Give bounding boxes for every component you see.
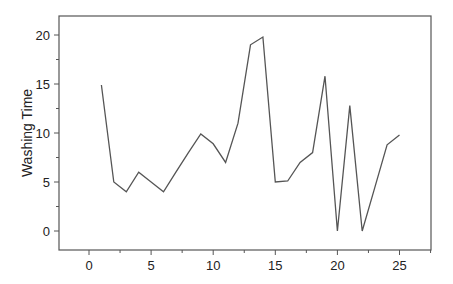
- plot-frame: [59, 16, 431, 250]
- x-axis: 0510152025: [85, 250, 430, 273]
- line-chart: 0510152025 05101520 Washing Time: [0, 0, 453, 284]
- y-tick-label: 15: [36, 77, 50, 92]
- x-tick-label: 0: [85, 258, 92, 273]
- y-axis: 05101520: [36, 28, 59, 239]
- x-tick-label: 25: [392, 258, 406, 273]
- y-tick-label: 10: [36, 126, 50, 141]
- data-series: [101, 37, 399, 231]
- y-tick-label: 0: [43, 224, 50, 239]
- x-tick-label: 15: [268, 258, 282, 273]
- y-tick-label: 20: [36, 28, 50, 43]
- y-axis-label: Washing Time: [19, 89, 35, 177]
- series-line: [101, 37, 399, 231]
- x-tick-label: 10: [206, 258, 220, 273]
- x-tick-label: 20: [330, 258, 344, 273]
- x-tick-label: 5: [147, 258, 154, 273]
- y-tick-label: 5: [43, 175, 50, 190]
- plot-border: [59, 16, 431, 250]
